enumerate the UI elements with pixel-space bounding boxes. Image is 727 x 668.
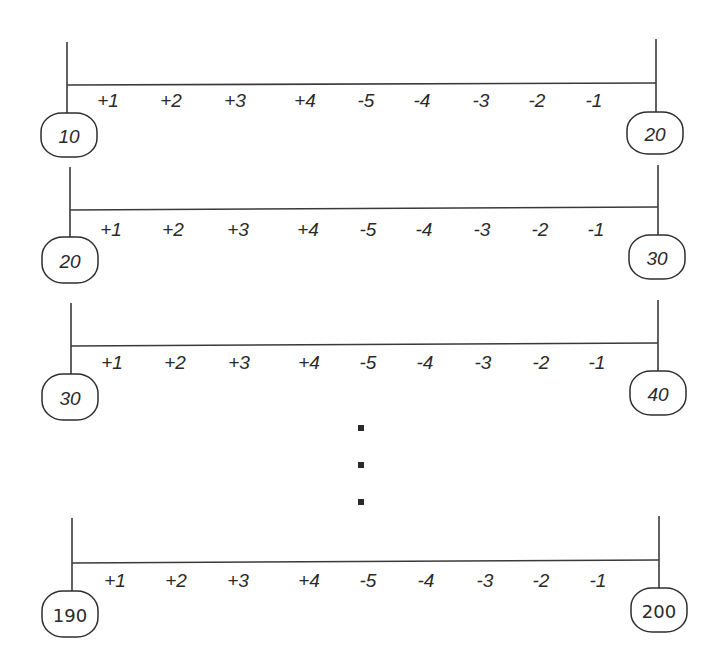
left-endpoint-label: 190 [53,605,87,626]
left-endpoint-label: 30 [59,388,81,409]
tick-label: -4 [417,352,434,373]
right-endpoint-label: 30 [646,248,668,269]
left-endpoint-label: 10 [58,126,80,147]
horizontal-number-line [72,560,659,563]
tick-label: -5 [360,219,377,240]
tick-label: +2 [160,90,182,111]
tick-label: +3 [224,90,246,111]
ellipsis-dot [358,462,364,468]
tick-label: +2 [164,352,186,373]
tick-label: -3 [473,90,490,111]
tick-label: -4 [416,219,433,240]
number-line-diagram: +1+2+3+4-5-4-3-2-11020+1+2+3+4-5-4-3-2-1… [0,0,727,668]
tick-label: -2 [529,90,546,111]
tick-label: -1 [586,90,603,111]
horizontal-number-line [71,343,658,346]
tick-label: -2 [533,570,550,591]
tick-label: +4 [294,90,316,111]
tick-label: -3 [477,570,494,591]
left-endpoint-label: 20 [58,251,81,272]
right-endpoint-label: 40 [647,384,669,405]
tick-label: -1 [590,570,607,591]
number-line-row: +1+2+3+4-5-4-3-2-1190200 [42,516,687,637]
number-line-row: +1+2+3+4-5-4-3-2-13040 [42,300,686,420]
tick-label: +1 [100,219,122,240]
tick-label: -1 [589,352,606,373]
tick-label: +3 [228,352,250,373]
right-endpoint-label: 20 [643,124,666,145]
tick-label: -3 [474,219,491,240]
tick-label: -5 [360,352,377,373]
number-line-row: +1+2+3+4-5-4-3-2-11020 [41,39,683,157]
tick-label: +4 [297,219,319,240]
tick-label: -5 [358,90,375,111]
right-endpoint-label: 200 [642,601,676,622]
tick-label: +2 [162,219,184,240]
tick-label: +1 [101,352,123,373]
tick-label: -2 [533,352,550,373]
number-line-row: +1+2+3+4-5-4-3-2-12030 [42,165,685,283]
tick-label: +3 [227,219,249,240]
tick-label: -3 [475,352,492,373]
tick-label: -1 [588,219,605,240]
tick-label: -4 [418,570,435,591]
horizontal-number-line [67,83,656,85]
tick-label: -5 [360,570,377,591]
tick-label: +1 [97,90,119,111]
horizontal-number-line [70,207,658,210]
number-line-rows: +1+2+3+4-5-4-3-2-11020+1+2+3+4-5-4-3-2-1… [41,39,687,637]
ellipsis-dot [358,499,364,505]
tick-label: +1 [104,570,126,591]
tick-label: -2 [532,219,549,240]
tick-label: +4 [298,570,320,591]
ellipsis-dot [358,425,364,431]
tick-label: +2 [165,570,187,591]
tick-label: -4 [414,90,431,111]
tick-label: +3 [227,570,249,591]
vertical-ellipsis-icon [358,425,364,505]
tick-label: +4 [298,352,320,373]
